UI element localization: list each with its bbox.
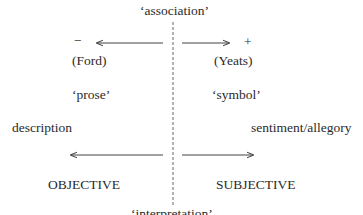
minus-sign: − — [74, 34, 82, 48]
top-label-association: ‘association’ — [140, 4, 209, 18]
left-author-ford: (Ford) — [72, 54, 107, 68]
right-author-yeats: (Yeats) — [214, 54, 252, 68]
left-genre-description: description — [12, 121, 72, 135]
right-pole-subjective: SUBJECTIVE — [216, 178, 296, 192]
bottom-label-interpretation: ‘interpretation’ — [131, 207, 213, 215]
left-mode-prose: ‘prose’ — [72, 88, 110, 102]
right-mode-symbol: ‘symbol’ — [212, 88, 261, 102]
left-pole-objective: OBJECTIVE — [48, 178, 120, 192]
plus-sign: + — [244, 35, 252, 49]
right-genre-sentiment-allegory: sentiment/allegory — [251, 121, 351, 135]
